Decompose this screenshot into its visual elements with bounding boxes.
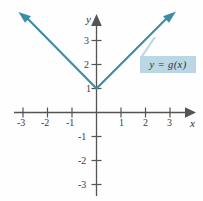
x-axis-label: x xyxy=(190,118,195,129)
coordinate-plane xyxy=(0,0,203,201)
y-tick-label--3: -3 xyxy=(78,180,86,190)
y-tick-label--1: -1 xyxy=(78,132,86,142)
y-tick-label-3: 3 xyxy=(84,36,89,46)
x-tick-label--1: -1 xyxy=(66,118,74,128)
x-tick-label-1: 1 xyxy=(119,118,124,128)
y-tick-label--2: -2 xyxy=(78,156,86,166)
x-tick-label-3: 3 xyxy=(167,118,172,128)
y-axis-label: y xyxy=(86,14,91,25)
curve-label-text: y = g(x) xyxy=(149,59,186,70)
y-tick-label-1: 1 xyxy=(86,84,91,94)
x-tick-label--2: -2 xyxy=(41,118,49,128)
y-tick-label-2: 2 xyxy=(84,60,89,70)
x-tick-label-2: 2 xyxy=(143,118,148,128)
y-axis-arrowhead xyxy=(91,14,102,26)
graph-figure: -3 -2 -1 1 2 3 3 2 1 -1 -2 -3 y x y = g(… xyxy=(0,0,203,201)
x-tick-label--3: -3 xyxy=(17,118,25,128)
curve-label-callout: y = g(x) xyxy=(140,56,196,73)
